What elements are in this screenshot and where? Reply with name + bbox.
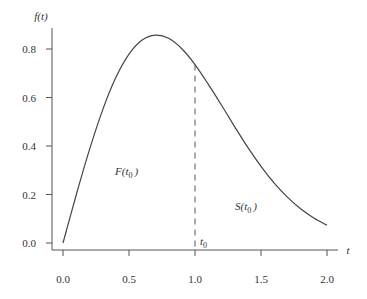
x-tick-label: 0.5 (122, 273, 136, 285)
y-tick-labels: 0.0 0.2 0.4 0.6 0.8 (22, 43, 36, 249)
y-axis-label: f(t) (34, 10, 48, 23)
x-tick-label: 2.0 (320, 273, 334, 285)
y-tick-label: 0.2 (22, 189, 36, 201)
x-tick-label: 0.0 (56, 273, 70, 285)
x-axis-label: t (346, 244, 350, 256)
y-tick-label: 0.0 (22, 237, 36, 249)
x-tick-labels: 0.0 0.5 1.0 1.5 2.0 (56, 273, 334, 285)
y-tick-label: 0.4 (22, 140, 36, 152)
t0-label: t0 (200, 235, 207, 250)
x-ticks (63, 250, 327, 256)
x-tick-label: 1.5 (254, 273, 268, 285)
y-tick-label: 0.6 (22, 92, 36, 104)
survival-region-label: S(t0) (235, 200, 257, 215)
x-tick-label: 1.0 (188, 273, 202, 285)
cdf-region-label: F(t0) (114, 165, 138, 180)
y-ticks (46, 49, 52, 243)
density-chart: 0.0 0.2 0.4 0.6 0.8 0.0 0.5 1.0 1.5 2.0 … (0, 0, 367, 299)
y-tick-label: 0.8 (22, 43, 36, 55)
